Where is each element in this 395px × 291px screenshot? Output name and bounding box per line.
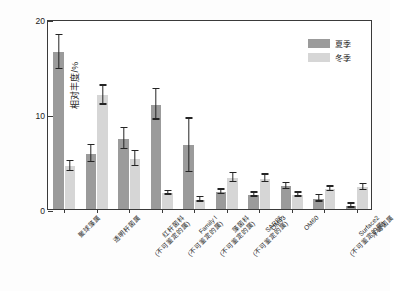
bar-summer: [151, 105, 162, 210]
bar-group-item: [195, 19, 206, 209]
bar-winter: [65, 166, 76, 209]
error-bar-cap-bottom: [283, 188, 290, 189]
error-bar-cap-bottom: [153, 118, 160, 119]
error-bar-cap-top: [348, 202, 355, 203]
bar-group-item: [130, 19, 141, 209]
error-bar-line: [90, 145, 91, 162]
y-tick-label: 20: [36, 16, 45, 26]
error-bar-cap-top: [315, 194, 322, 195]
bar-summer: [216, 192, 227, 209]
error-bar-cap-bottom: [262, 181, 269, 182]
bar-summer: [53, 52, 64, 209]
legend-swatch-winter: [308, 53, 330, 62]
error-bar-cap-top: [327, 185, 334, 186]
bar-group-item: [260, 19, 271, 209]
x-axis-labels: 聚球藻属透明杆菌属红杆菌科(不可鉴定的属)Family I(不可鉴定的属)藻菌科…: [0, 212, 390, 291]
bar-winter: [162, 193, 173, 209]
error-bar-cap-top: [55, 34, 62, 35]
error-bar-cap-top: [88, 144, 95, 145]
error-bar-cap-bottom: [250, 195, 257, 196]
bar-group-item: [162, 19, 173, 209]
error-bar-cap-top: [229, 172, 236, 173]
legend-item-winter: 冬季: [308, 52, 351, 63]
error-bar-line: [102, 86, 103, 105]
bar-group-item: [65, 19, 76, 209]
bar-group-item: [151, 19, 162, 209]
x-axis-label-line1: 聚球藻属: [77, 214, 102, 239]
error-bar-cap-top: [120, 127, 127, 128]
error-bar-cap-bottom: [67, 170, 74, 171]
error-bar-cap-bottom: [229, 181, 236, 182]
bar-group-item: [281, 19, 292, 209]
error-bar-cap-bottom: [294, 195, 301, 196]
bar-winter: [292, 195, 303, 209]
bar-group-item: [118, 19, 129, 209]
error-bar-cap-top: [262, 173, 269, 174]
error-bar-cap-bottom: [327, 190, 334, 191]
bar-winter: [227, 178, 238, 209]
error-bar-cap-bottom: [218, 193, 225, 194]
error-bar-cap-bottom: [348, 206, 355, 207]
error-bar-cap-top: [294, 191, 301, 192]
error-bar-cap-top: [218, 188, 225, 189]
legend-item-summer: 夏季: [308, 38, 351, 49]
error-bar-cap-top: [164, 190, 171, 191]
error-bar-line: [155, 89, 156, 119]
legend-label-winter: 冬季: [335, 52, 351, 63]
error-bar-line: [188, 119, 189, 172]
x-axis-label: 透明杆菌属: [112, 214, 142, 244]
x-axis-label-line1: 透明杆菌属: [112, 214, 142, 244]
error-bar-cap-top: [359, 183, 366, 184]
x-axis-label: OM60: [302, 214, 320, 232]
error-bar-cap-top: [99, 84, 106, 85]
bar-winter: [325, 189, 336, 209]
bar-group-item: [53, 19, 64, 209]
error-bar-cap-bottom: [88, 161, 95, 162]
bar-group-item: [227, 19, 238, 209]
bar-summer: [118, 139, 129, 209]
bar-winter: [97, 95, 108, 209]
error-bar-cap-bottom: [359, 189, 366, 190]
bar-summer: [281, 186, 292, 209]
bar-winter: [357, 187, 368, 209]
legend-swatch-summer: [308, 39, 330, 48]
x-axis-label: Surface2(不可鉴定的属): [343, 214, 387, 258]
x-axis-label: 聚球藻属: [77, 214, 102, 239]
bar-group-item: [292, 19, 303, 209]
x-axis-label-line1: OM60: [302, 214, 319, 231]
bar-winter: [260, 179, 271, 209]
error-bar-cap-top: [250, 191, 257, 192]
bar-group-item: [97, 19, 108, 209]
chart-legend: 夏季 冬季: [303, 35, 356, 69]
error-bar-cap-top: [185, 117, 192, 118]
error-bar-cap-bottom: [55, 68, 62, 69]
error-bar-cap-top: [283, 182, 290, 183]
error-bar-cap-top: [67, 160, 74, 161]
legend-label-summer: 夏季: [335, 38, 351, 49]
bar-group-item: [248, 19, 259, 209]
y-tick-label: 10: [36, 111, 45, 121]
error-bar-cap-bottom: [132, 165, 139, 166]
error-bar-line: [58, 35, 59, 69]
bar-group-item: [216, 19, 227, 209]
error-bar-cap-bottom: [120, 148, 127, 149]
error-bar-cap-bottom: [164, 193, 171, 194]
bar-group-item: [357, 19, 368, 209]
error-bar-cap-bottom: [185, 171, 192, 172]
error-bar-cap-bottom: [99, 103, 106, 104]
error-bar-cap-top: [153, 88, 160, 89]
error-bar-cap-bottom: [197, 200, 204, 201]
error-bar-line: [123, 128, 124, 149]
bar-group-item: [86, 19, 97, 209]
bar-group-item: [183, 19, 194, 209]
error-bar-cap-top: [132, 150, 139, 151]
bar-summer: [248, 195, 259, 209]
error-bar-cap-top: [197, 196, 204, 197]
error-bar-cap-bottom: [315, 200, 322, 201]
plot-area: 相对丰度/% 01020 夏季 冬季: [47, 20, 372, 210]
